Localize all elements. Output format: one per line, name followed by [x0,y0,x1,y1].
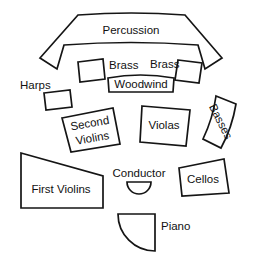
section-harps[interactable]: Harps [20,79,72,110]
section-violas[interactable]: Violas [140,106,190,146]
orchestra-seating-diagram: Percussion Brass Brass Woodwind Harps Se… [0,0,263,260]
section-first-violins[interactable]: First Violins [21,153,103,208]
cellos-label: Cellos [187,173,219,185]
brass-right-label: Brass [150,58,180,70]
harps-label: Harps [20,79,51,91]
harps-shape [44,90,72,110]
seating-chart-canvas: Percussion Brass Brass Woodwind Harps Se… [0,0,263,260]
piano-label: Piano [161,220,190,232]
brass-left-label: Brass [109,59,139,71]
percussion-label: Percussion [103,24,160,36]
section-cellos[interactable]: Cellos [179,159,229,196]
piano-shape [118,214,155,251]
violas-label: Violas [148,119,179,131]
section-piano[interactable]: Piano [118,214,190,251]
section-second-violins[interactable]: Second Violins [62,108,120,152]
first-violins-shape [21,153,103,208]
first-violins-label: First Violins [31,183,90,195]
section-woodwind[interactable]: Woodwind [108,75,174,92]
conductor-shape [127,182,151,194]
conductor-label: Conductor [112,167,165,179]
section-conductor[interactable]: Conductor [112,167,165,194]
woodwind-label: Woodwind [114,78,168,90]
brass-left-shape [78,59,105,82]
section-basses[interactable]: Basses [203,96,236,148]
